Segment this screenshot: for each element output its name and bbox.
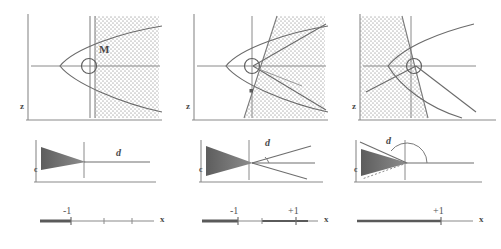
axis-label-z: z: [20, 102, 24, 111]
panel-top-3-svg: [346, 4, 498, 126]
panel-middle-1-svg: [28, 136, 158, 190]
tick-label-minus1: -1: [63, 206, 71, 216]
axis-label-c: c: [199, 166, 203, 174]
tangency-point: [250, 89, 254, 93]
numberline-1: -1 x: [38, 208, 168, 234]
axis-label-x: x: [479, 215, 484, 224]
panel-middle-2: c d: [193, 136, 325, 190]
axis-label-x: x: [324, 215, 329, 224]
ray-d-upper: [252, 146, 311, 163]
panel-middle-3: c d: [348, 136, 484, 190]
tick-label-minus1: -1: [230, 206, 238, 216]
panel-top-1: z M: [14, 4, 164, 126]
axis-label-c: c: [34, 166, 38, 174]
ray-label-d: d: [386, 136, 391, 146]
panel-top-2-svg: [180, 4, 330, 126]
panel-middle-3-svg: [348, 136, 484, 190]
figure-panel-grid: z M: [0, 0, 501, 249]
panel-middle-1: c d: [28, 136, 158, 190]
panel-top-3: z: [346, 4, 498, 126]
axis-label-c: c: [354, 166, 358, 174]
numberline-2: -1 +1 x: [200, 208, 336, 234]
axis-label-x: x: [160, 215, 165, 224]
panel-top-1-svg: [14, 4, 164, 126]
numberline-3: +1 x: [355, 208, 491, 234]
axis-label-z: z: [352, 102, 356, 111]
axis-label-z: z: [186, 102, 190, 111]
numberline-3-svg: [355, 208, 491, 234]
shaded-region: [356, 16, 446, 118]
panel-middle-2-svg: [193, 136, 325, 190]
tick-label-plus1: +1: [288, 206, 299, 216]
wedge-region: [41, 147, 86, 170]
ray-label-d: d: [116, 148, 121, 158]
wedge-region: [206, 146, 253, 176]
ray-label-d: d: [265, 138, 270, 148]
point-label-m: M: [99, 44, 109, 55]
numberline-1-svg: [38, 208, 168, 234]
tick-label-plus1: +1: [433, 206, 444, 216]
panel-top-2: z: [180, 4, 330, 126]
ray-lower: [252, 163, 307, 179]
numberline-2-svg: [200, 208, 336, 234]
